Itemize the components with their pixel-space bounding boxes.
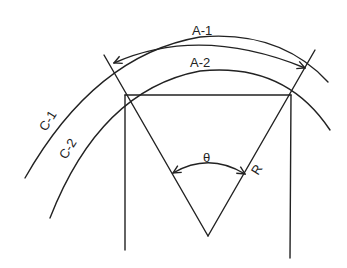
label-theta: θ [203, 150, 210, 165]
left-radius-line [104, 55, 208, 236]
label-radius: R [248, 162, 266, 178]
label-a2: A-2 [190, 55, 210, 70]
right-radius-line [208, 50, 315, 236]
geometry-diagram: A-1 A-2 C-1 C-2 θ R [0, 0, 347, 268]
label-a1: A-1 [192, 23, 212, 38]
label-c2: C-2 [56, 136, 80, 162]
right-vertical-line [290, 95, 291, 258]
